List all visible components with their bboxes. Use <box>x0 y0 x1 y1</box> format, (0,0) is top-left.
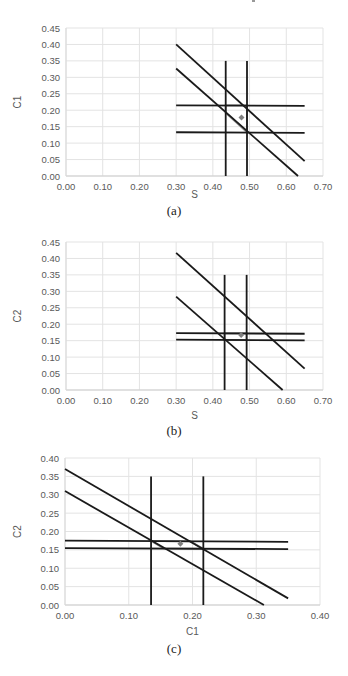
horizontal-upper <box>176 105 305 106</box>
svg-text:0.45: 0.45 <box>42 23 61 34</box>
horizontal-lower <box>176 340 305 341</box>
diagonal-upper <box>176 44 305 161</box>
horizontal-lower <box>65 548 288 549</box>
y-tick-labels: 0.000.050.100.150.200.250.300.350.400.45 <box>42 237 61 396</box>
svg-text:0.60: 0.60 <box>277 395 296 406</box>
svg-text:0.60: 0.60 <box>277 181 296 192</box>
svg-text:0.10: 0.10 <box>42 138 61 149</box>
svg-text:0.25: 0.25 <box>42 88 61 99</box>
gridlines <box>66 28 323 176</box>
x-tick-labels: 0.000.100.200.300.400.500.600.70 <box>57 395 333 406</box>
svg-text:0.00: 0.00 <box>42 171 61 182</box>
svg-text:0.30: 0.30 <box>42 286 61 297</box>
caption-c: (c) <box>0 641 348 657</box>
svg-text:0.15: 0.15 <box>41 544 60 555</box>
series-lines <box>65 469 288 605</box>
diagonal-upper <box>65 469 288 598</box>
x-tick-labels: 0.000.100.200.300.40 <box>56 610 330 621</box>
svg-text:0.20: 0.20 <box>41 526 60 537</box>
svg-text:0.25: 0.25 <box>42 302 61 313</box>
svg-text:0.00: 0.00 <box>42 385 61 396</box>
svg-text:0.25: 0.25 <box>41 508 60 519</box>
gridlines <box>66 242 323 390</box>
svg-text:0.35: 0.35 <box>41 471 60 482</box>
x-axis-title: S <box>191 189 198 200</box>
svg-text:0.20: 0.20 <box>130 395 149 406</box>
svg-text:0.40: 0.40 <box>42 253 61 264</box>
chart-c: 0.000.100.200.300.400.000.050.100.150.20… <box>12 453 329 638</box>
svg-text:0.05: 0.05 <box>42 154 61 165</box>
series-lines <box>176 253 305 390</box>
svg-text:0.15: 0.15 <box>42 121 61 132</box>
svg-text:0.20: 0.20 <box>42 105 61 116</box>
svg-text:0.70: 0.70 <box>314 395 333 406</box>
svg-text:0.05: 0.05 <box>41 581 60 592</box>
svg-text:0.50: 0.50 <box>240 181 259 192</box>
svg-text:0.40: 0.40 <box>42 39 61 50</box>
chart-a: 0.000.100.200.300.400.500.600.700.000.05… <box>12 23 332 201</box>
svg-text:0.15: 0.15 <box>42 335 61 346</box>
caption-b: (b) <box>0 423 348 439</box>
svg-text:0.70: 0.70 <box>314 181 333 192</box>
svg-text:0.30: 0.30 <box>41 489 60 500</box>
svg-text:0.30: 0.30 <box>247 610 266 621</box>
svg-text:0.20: 0.20 <box>42 319 61 330</box>
svg-text:0.10: 0.10 <box>41 563 60 574</box>
diagonal-lower <box>176 297 282 390</box>
svg-text:0.35: 0.35 <box>42 269 61 280</box>
svg-text:0.40: 0.40 <box>204 395 223 406</box>
y-axis-title: C2 <box>12 309 23 322</box>
caption-a: (a) <box>0 203 348 219</box>
svg-text:0.40: 0.40 <box>311 610 330 621</box>
svg-text:0.00: 0.00 <box>41 600 60 611</box>
svg-text:0.20: 0.20 <box>130 181 149 192</box>
diagonal-upper <box>176 253 305 369</box>
horizontal-upper <box>65 541 288 542</box>
y-tick-labels: 0.000.050.100.150.200.250.300.350.400.45 <box>42 23 61 182</box>
svg-text:0.30: 0.30 <box>167 395 186 406</box>
gridlines <box>65 458 320 605</box>
svg-text:0.40: 0.40 <box>41 453 60 464</box>
y-axis-title: C1 <box>12 95 23 108</box>
svg-text:0.00: 0.00 <box>57 181 76 192</box>
estimate-marker <box>238 114 244 120</box>
y-axis-title: C2 <box>12 525 23 538</box>
figure-canvas: 0.000.100.200.300.400.500.600.700.000.05… <box>0 0 348 676</box>
chart-b: 0.000.100.200.300.400.500.600.700.000.05… <box>12 237 332 422</box>
svg-text:0.10: 0.10 <box>93 395 112 406</box>
svg-text:0.40: 0.40 <box>204 181 223 192</box>
horizontal-lower <box>176 132 305 133</box>
x-axis-title: C1 <box>186 626 199 637</box>
svg-text:0.20: 0.20 <box>183 610 202 621</box>
svg-text:0.10: 0.10 <box>93 181 112 192</box>
svg-text:0.30: 0.30 <box>167 181 186 192</box>
svg-text:0.05: 0.05 <box>42 368 61 379</box>
svg-text:0.00: 0.00 <box>57 395 76 406</box>
svg-text:0.50: 0.50 <box>240 395 259 406</box>
svg-text:0.30: 0.30 <box>42 72 61 83</box>
svg-text:0.10: 0.10 <box>120 610 139 621</box>
svg-text:0.00: 0.00 <box>56 610 75 621</box>
svg-text:0.45: 0.45 <box>42 237 61 248</box>
svg-text:0.10: 0.10 <box>42 352 61 363</box>
svg-text:0.35: 0.35 <box>42 55 61 66</box>
x-axis-title: S <box>191 410 198 421</box>
y-tick-labels: 0.000.050.100.150.200.250.300.350.40 <box>41 453 60 611</box>
